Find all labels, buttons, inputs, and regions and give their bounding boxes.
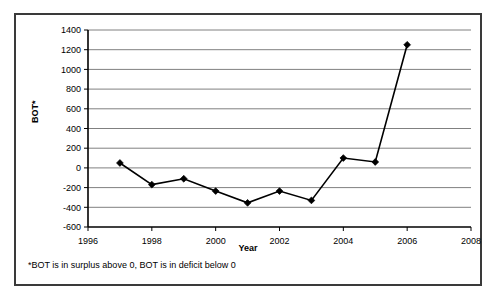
- series-line-bot: [120, 45, 407, 203]
- data-point-marker: [244, 199, 251, 206]
- chart-footnote: *BOT is in surplus above 0, BOT is in de…: [28, 260, 236, 270]
- data-point-marker: [404, 41, 411, 48]
- data-point-marker: [276, 188, 283, 195]
- y-tick-label: 800: [66, 84, 81, 94]
- y-tick-label: 1000: [61, 65, 81, 75]
- data-point-marker: [212, 188, 219, 195]
- y-tick-label: -400: [63, 203, 81, 213]
- y-tick-label: 1400: [61, 25, 81, 35]
- plot-area-wrapper: -600-400-2000200400600800100012001400199…: [16, 15, 480, 284]
- y-axis-title: BOT*: [30, 101, 40, 124]
- y-tick-label: 1200: [61, 45, 81, 55]
- y-tick-label: -600: [63, 222, 81, 232]
- x-axis-title: Year: [16, 243, 480, 253]
- y-tick-label: 200: [66, 143, 81, 153]
- data-point-marker: [372, 159, 379, 166]
- chart-figure-frame: -600-400-2000200400600800100012001400199…: [14, 13, 482, 286]
- y-tick-label: 600: [66, 104, 81, 114]
- y-tick-label: 400: [66, 124, 81, 134]
- data-point-marker: [180, 175, 187, 182]
- y-tick-label: 0: [76, 163, 81, 173]
- y-tick-label: -200: [63, 183, 81, 193]
